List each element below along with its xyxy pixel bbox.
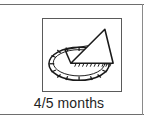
sundial-icon <box>43 19 121 91</box>
card-top-divider <box>0 4 144 5</box>
card-right-edge <box>142 4 143 115</box>
card-caption: 4/5 months <box>0 95 138 111</box>
milestone-card: 4/5 months <box>0 0 144 126</box>
sundial-icon-frame <box>42 18 122 92</box>
card-bottom-divider <box>0 114 144 115</box>
